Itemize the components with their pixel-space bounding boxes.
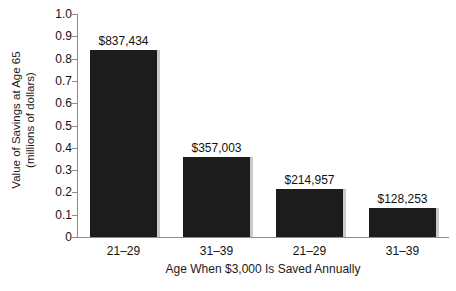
bar-value-label: $357,003 (191, 141, 241, 155)
y-axis-tick-label: 0.4 (44, 142, 72, 154)
y-axis-tick-label: 0.8 (44, 53, 72, 65)
y-axis-tick-mark (72, 103, 78, 104)
plot-area: $837,43421–29$357,00331–39$214,95721–29$… (77, 14, 449, 237)
bar[interactable] (276, 189, 343, 237)
y-axis-title-line-2: (millions of dollars) (23, 51, 37, 188)
y-axis-tick-label: 0 (44, 231, 72, 243)
x-axis-line (77, 237, 449, 238)
y-axis-tick-mark (72, 148, 78, 149)
x-axis-category-label: 31–39 (200, 244, 233, 258)
y-axis-tick-label: 0.3 (44, 164, 72, 176)
y-axis-tick-label: 0.9 (44, 30, 72, 42)
y-axis-tick-label: 0.6 (44, 97, 72, 109)
y-axis-tick-label: 0.2 (44, 186, 72, 198)
bar-value-label: $837,434 (98, 34, 148, 48)
y-axis-tick-mark (72, 215, 78, 216)
y-axis-tick-mark (72, 192, 78, 193)
y-axis-tick-mark (72, 126, 78, 127)
x-axis-category-label: 21–29 (107, 244, 140, 258)
y-axis-tick-mark (72, 81, 78, 82)
y-axis-tick-label: 0.7 (44, 75, 72, 87)
x-axis-category-label: 21–29 (293, 244, 326, 258)
bar-value-label: $128,253 (377, 192, 427, 206)
x-axis-title: Age When $3,000 Is Saved Annually (77, 262, 449, 276)
bar-value-label: $214,957 (284, 173, 334, 187)
y-axis-tick-mark (72, 59, 78, 60)
bar[interactable] (183, 157, 250, 237)
y-axis-tick-label: 0.1 (44, 209, 72, 221)
y-axis-tick-mark (72, 170, 78, 171)
y-axis-tick-mark (72, 36, 78, 37)
bar-chart-figure: Value of Savings at Age 65 (millions of … (0, 0, 456, 291)
y-axis-title-line-1: Value of Savings at Age 65 (9, 51, 23, 188)
y-axis-tick-labels: 00.10.20.30.40.50.60.70.80.91.0 (40, 0, 72, 291)
y-axis-tick-label: 1.0 (44, 8, 72, 20)
x-axis-category-label: 31–39 (386, 244, 419, 258)
bar[interactable] (90, 50, 157, 237)
bar[interactable] (369, 208, 436, 237)
y-axis-tick-mark (72, 14, 78, 15)
y-axis-tick-mark (72, 237, 78, 238)
y-axis-tick-label: 0.5 (44, 120, 72, 132)
